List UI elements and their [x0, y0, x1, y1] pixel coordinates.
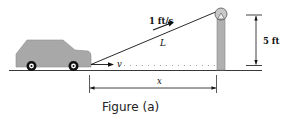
figure-caption: Figure (a): [102, 100, 159, 114]
distance-dimension: [90, 75, 217, 93]
rope-length-label: L: [159, 38, 166, 48]
height-label: 5 ft: [263, 36, 280, 46]
car-icon: [16, 40, 91, 71]
rope-speed-label: 1 ft/s: [149, 16, 174, 26]
height-dimension: [246, 15, 262, 66]
pulley-icon: [215, 8, 227, 20]
distance-label: x: [157, 76, 162, 86]
pole: [217, 18, 225, 70]
figure-diagram: 1 ft/s L v x 5 ft Figure (a): [0, 0, 285, 124]
velocity-label: v: [117, 59, 122, 69]
